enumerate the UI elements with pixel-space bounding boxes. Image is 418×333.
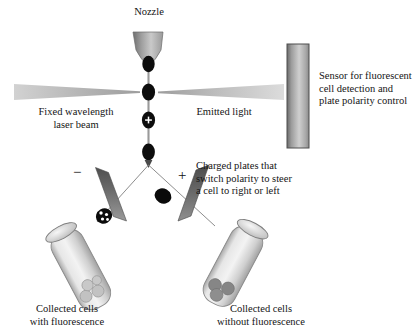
collected-left-label: Collected cells with fluorescence <box>6 303 128 328</box>
droplet-icon <box>142 83 155 100</box>
collection-tube-right <box>198 216 270 312</box>
stream-split-arrow-icon <box>145 160 153 168</box>
plate-positive-sign: + <box>178 168 186 183</box>
droplet-icon <box>152 185 174 206</box>
nozzle-label: Nozzle <box>118 6 180 19</box>
droplet-icon <box>142 56 154 72</box>
laser-wedge-icon <box>14 84 140 100</box>
collected-right-label: Collected cells without fluorescence <box>186 303 336 328</box>
sensor-bar-icon <box>287 44 309 148</box>
droplet-icon <box>142 144 155 161</box>
charged-plates-label: Charged plates that switch polarity to s… <box>196 160 336 198</box>
charged-droplet-icon <box>142 111 155 128</box>
facs-diagram: Nozzle Fixed wavelength laser beam Emitt… <box>0 0 418 333</box>
sensor-label: Sensor for fluorescent cell detection an… <box>319 70 417 108</box>
collection-tube-left <box>43 219 115 315</box>
emitted-light-wedge-icon <box>158 84 284 100</box>
emitted-light-label: Emitted light <box>172 106 276 119</box>
plate-negative-sign: − <box>73 165 81 180</box>
laser-beam-label: Fixed wavelength laser beam <box>16 106 136 131</box>
